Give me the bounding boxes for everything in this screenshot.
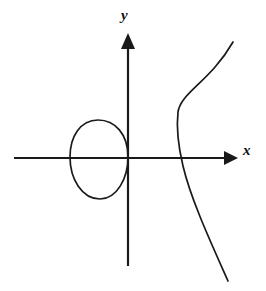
x-axis-arrowhead bbox=[224, 151, 238, 165]
graph-figure: y x bbox=[0, 0, 266, 291]
y-axis-arrowhead bbox=[121, 33, 135, 49]
oval-loop-curve bbox=[70, 120, 128, 199]
y-axis-label: y bbox=[121, 8, 128, 23]
coordinate-plane-svg bbox=[0, 0, 266, 291]
x-axis-label: x bbox=[243, 143, 251, 158]
